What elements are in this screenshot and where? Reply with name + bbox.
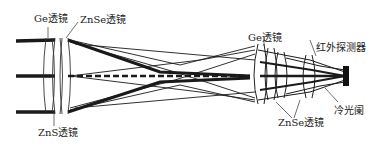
detector bbox=[343, 66, 349, 86]
rear-lens-group bbox=[254, 44, 315, 104]
focused-rays bbox=[258, 50, 345, 100]
input-ray-bundles bbox=[16, 40, 55, 112]
label-ir-detector: 红外探测器 bbox=[316, 43, 366, 53]
label-znse-lens-rear: ZnSe透镜 bbox=[278, 118, 324, 128]
label-cold-stop: 冷光阑 bbox=[334, 106, 364, 116]
label-znse-lens-front: ZnSe透镜 bbox=[80, 15, 126, 25]
label-ge-lens-rear: Ge透镜 bbox=[248, 33, 282, 43]
label-ge-lens-front: Ge透镜 bbox=[34, 14, 68, 24]
converging-rays bbox=[68, 40, 255, 112]
label-zns-lens: ZnS透镜 bbox=[38, 128, 78, 138]
